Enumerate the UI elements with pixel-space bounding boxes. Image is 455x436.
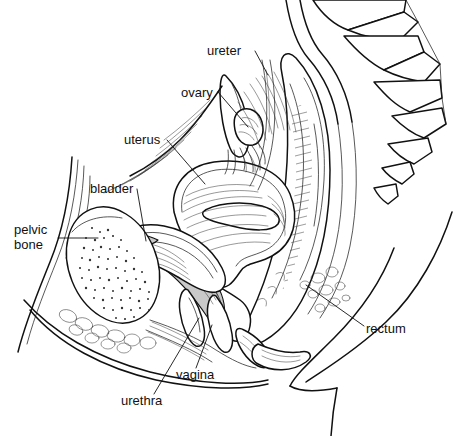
ovary-body [234, 109, 263, 146]
anatomy-figure: ureter ovary uterus bladder pelvic bone … [0, 0, 455, 436]
label-urethra: urethra [121, 393, 163, 408]
anal-canal [252, 344, 310, 370]
label-rectum: rectum [366, 321, 406, 336]
fallopian-tube [220, 75, 265, 174]
label-ureter: ureter [207, 43, 242, 58]
pelvis-sagittal-diagram: ureter ovary uterus bladder pelvic bone … [0, 0, 455, 436]
label-vagina: vagina [176, 367, 215, 382]
label-uterus: uterus [124, 132, 161, 147]
label-pelvic-bone-line2: bone [14, 237, 43, 252]
label-bladder: bladder [90, 181, 134, 196]
pubic-bone [50, 193, 177, 337]
leader-ureter [255, 51, 268, 75]
label-ovary: ovary [181, 85, 213, 100]
label-pelvic-bone-line1: pelvic [14, 222, 48, 237]
label-pelvic-bone: pelvic bone [14, 222, 51, 252]
